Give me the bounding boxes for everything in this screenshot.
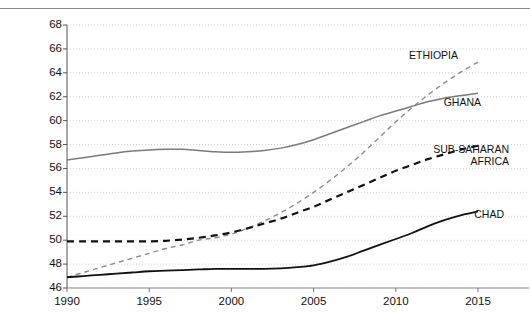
- y-tick-label: 50: [20, 233, 62, 245]
- series-label-line: ETHIOPIA: [0, 49, 458, 61]
- x-tick-label: 2015: [448, 295, 508, 307]
- y-tick-label: 48: [20, 257, 62, 269]
- x-tick-label: 2005: [284, 295, 344, 307]
- x-tick-label: 2000: [201, 295, 261, 307]
- series-label-line: GHANA: [0, 96, 481, 108]
- x-tick-label: 1990: [37, 295, 97, 307]
- y-tick-label: 46: [20, 281, 62, 293]
- y-tick-label: 54: [20, 185, 62, 197]
- series-label-line: SUB-SAHARAN: [0, 143, 509, 155]
- y-tick-label: 68: [20, 18, 62, 30]
- x-tick-label: 2010: [366, 295, 426, 307]
- series-lines: [67, 62, 478, 277]
- series-label-chad: CHAD: [0, 208, 504, 220]
- line-chart: 464850525456586062646668 199019952000200…: [0, 0, 530, 313]
- x-tick-label: 1995: [119, 295, 179, 307]
- series-label-sub-saharan-africa: SUB-SAHARANAFRICA: [0, 143, 509, 167]
- series-label-ethiopia: ETHIOPIA: [0, 49, 458, 61]
- y-tick-label: 64: [20, 66, 62, 78]
- series-label-line: AFRICA: [0, 155, 509, 167]
- series-line-ethiopia: [67, 62, 478, 277]
- y-tick-label: 60: [20, 114, 62, 126]
- series-label-ghana: GHANA: [0, 96, 481, 108]
- series-label-line: CHAD: [0, 208, 504, 220]
